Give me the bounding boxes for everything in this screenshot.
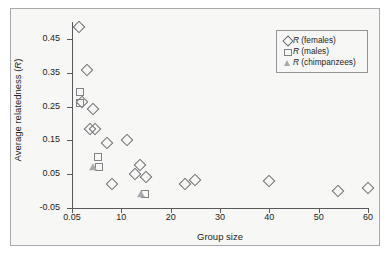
chart-legend: R (females)R (males)R (chimpanzees)	[276, 30, 368, 73]
data-point-chimpanzees	[137, 190, 145, 197]
y-tick-mark	[67, 174, 72, 175]
square-marker-icon	[282, 46, 293, 57]
x-tick-label: 50	[299, 213, 339, 222]
diamond-marker-icon	[282, 35, 293, 46]
y-tick-mark	[67, 140, 72, 141]
data-point-females	[332, 185, 345, 198]
legend-item: R (chimpanzees)	[282, 57, 363, 68]
y-tick-mark	[67, 39, 72, 40]
x-tick-label: 40	[249, 213, 289, 222]
legend-item-label: R (males)	[293, 47, 329, 56]
y-axis-title-suffix: )	[12, 59, 23, 62]
data-point-females	[106, 177, 119, 190]
legend-item: R (females)	[282, 35, 363, 46]
y-axis-title-symbol: R	[12, 62, 23, 69]
legend-item-label: R (females)	[293, 36, 336, 45]
data-point-females	[80, 64, 93, 77]
x-tick-label: 0.05	[52, 213, 92, 222]
x-tick-label: 20	[151, 213, 191, 222]
legend-item: R (males)	[282, 46, 363, 57]
data-point-females	[121, 133, 134, 146]
data-point-males	[76, 99, 84, 107]
data-point-males	[76, 88, 84, 96]
triangle-marker-icon	[282, 57, 293, 68]
y-tick-mark	[67, 107, 72, 108]
x-tick-label: 10	[101, 213, 141, 222]
data-point-females	[73, 21, 86, 34]
x-axis-title: Group size	[140, 232, 300, 242]
y-axis-title-prefix: Average relatedness (	[12, 69, 23, 162]
data-point-females	[140, 171, 153, 184]
legend-item-symbol: R	[293, 57, 299, 67]
data-point-females	[189, 174, 202, 187]
scatter-plot: 0.450.350.250.150.05-0.05 0.051020304050…	[0, 0, 392, 261]
y-tick-mark	[67, 73, 72, 74]
legend-item-symbol: R	[293, 46, 299, 56]
y-axis-title: Average relatedness (R)	[13, 30, 23, 190]
data-point-males	[94, 153, 102, 161]
x-tick-label: 60	[348, 213, 388, 222]
data-point-chimpanzees	[89, 163, 97, 170]
y-axis-line	[72, 22, 73, 209]
y-tick-label: -0.05	[14, 203, 60, 212]
legend-item-label: R (chimpanzees)	[293, 58, 356, 67]
data-point-females	[100, 137, 113, 150]
data-point-females	[362, 181, 375, 194]
data-point-females	[263, 174, 276, 187]
legend-item-symbol: R	[293, 35, 299, 45]
data-point-females	[86, 103, 99, 116]
x-tick-label: 30	[200, 213, 240, 222]
